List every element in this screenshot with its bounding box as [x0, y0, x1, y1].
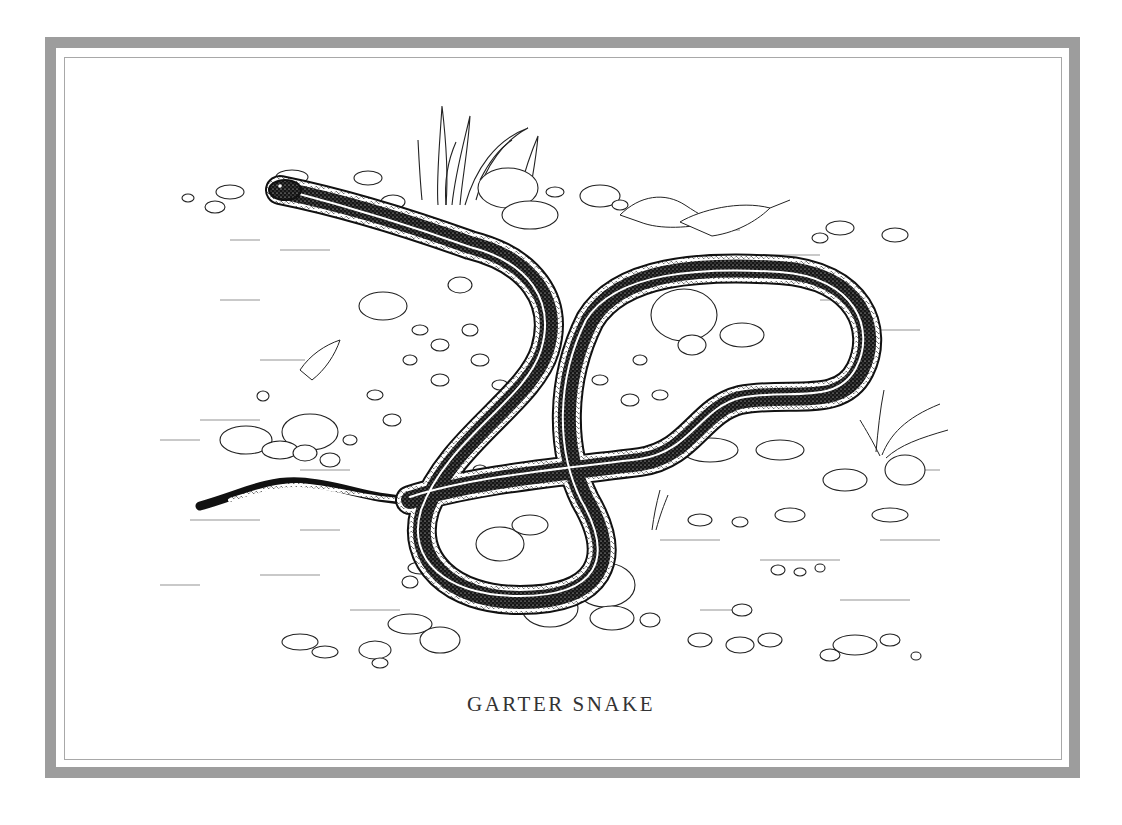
snake	[200, 180, 867, 600]
caption-title: GARTER SNAKE	[0, 692, 1122, 717]
